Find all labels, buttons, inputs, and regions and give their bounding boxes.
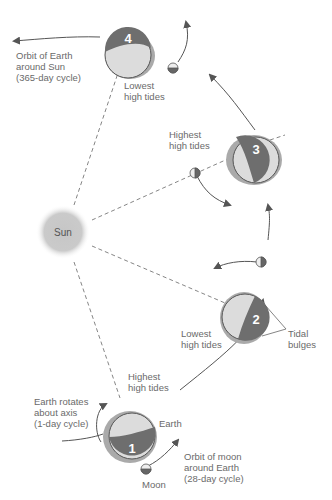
svg-text:2: 2: [252, 312, 259, 327]
tide-label-4: Lowest high tides: [124, 80, 165, 102]
earth-orbit-label: Orbit of Earth around Sun (365-day cycle…: [16, 50, 81, 83]
tide-label-3: Highest high tides: [169, 129, 210, 151]
earth-label: Earth: [159, 418, 182, 429]
tidal-bulges-label: Tidal bulges: [288, 328, 316, 350]
svg-text:4: 4: [124, 31, 132, 46]
moon-orbit-label: Orbit of moon around Earth (28-day cycle…: [184, 451, 244, 484]
earth-rotation-label: Earth rotates about axis (1-day cycle): [34, 396, 88, 429]
tide-label-1: Highest high tides: [128, 371, 169, 393]
svg-text:1: 1: [128, 441, 135, 456]
tide-label-2: Lowest high tides: [181, 328, 222, 350]
sun-label: Sun: [54, 227, 72, 238]
moon-label: Moon: [142, 479, 166, 490]
svg-text:3: 3: [252, 142, 259, 157]
sun-rays: [74, 70, 285, 398]
moon-icons: [141, 63, 266, 474]
